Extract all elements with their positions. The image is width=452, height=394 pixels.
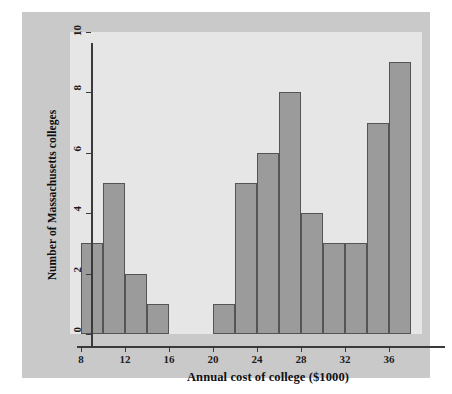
y-axis-line: [91, 43, 93, 347]
y-tick-label: 2: [71, 267, 83, 281]
y-tick-mark: [86, 274, 91, 275]
y-tick-mark: [86, 92, 91, 93]
histogram-bar: [323, 243, 345, 334]
x-tick-mark: [301, 347, 302, 352]
x-tick-mark: [169, 347, 170, 352]
x-tick-mark: [257, 347, 258, 352]
x-tick-label: 8: [69, 353, 93, 365]
x-tick-label: 36: [377, 353, 401, 365]
x-tick-label: 12: [113, 353, 137, 365]
x-tick-mark: [213, 347, 214, 352]
histogram-bar: [389, 62, 411, 334]
y-tick-label: 4: [71, 206, 83, 220]
histogram-bar: [125, 274, 147, 334]
x-axis-label: Annual cost of college ($1000): [92, 370, 444, 385]
x-tick-label: 32: [333, 353, 357, 365]
y-axis-label: Number of Massachusetts colleges: [46, 110, 58, 281]
y-tick-label: 0: [71, 327, 83, 341]
histogram-bars: [70, 32, 422, 334]
y-tick-mark: [86, 153, 91, 154]
histogram-bar: [301, 213, 323, 334]
histogram-bar: [257, 153, 279, 334]
x-tick-label: 20: [201, 353, 225, 365]
x-tick-label: 16: [157, 353, 181, 365]
x-tick-mark: [81, 347, 82, 352]
histogram-bar: [213, 304, 235, 334]
y-tick-label: 10: [71, 25, 83, 39]
histogram-bar: [147, 304, 169, 334]
histogram-bar: [345, 243, 367, 334]
x-tick-mark: [345, 347, 346, 352]
x-tick-mark: [125, 347, 126, 352]
histogram-bar: [279, 92, 301, 334]
y-axis-label-wrapper: Number of Massachusetts colleges: [44, 44, 60, 346]
histogram-bar: [235, 183, 257, 334]
y-tick-label: 8: [71, 85, 83, 99]
y-tick-mark: [86, 32, 91, 33]
plot-area: [70, 32, 422, 334]
y-tick-label: 6: [71, 146, 83, 160]
y-tick-mark: [86, 334, 91, 335]
y-tick-mark: [86, 213, 91, 214]
figure-panel: 812162024283236 0246810 Annual cost of c…: [22, 12, 430, 378]
x-tick-label: 28: [289, 353, 313, 365]
histogram-bar: [103, 183, 125, 334]
histogram-bar: [367, 123, 389, 334]
x-tick-mark: [389, 347, 390, 352]
x-tick-label: 24: [245, 353, 269, 365]
